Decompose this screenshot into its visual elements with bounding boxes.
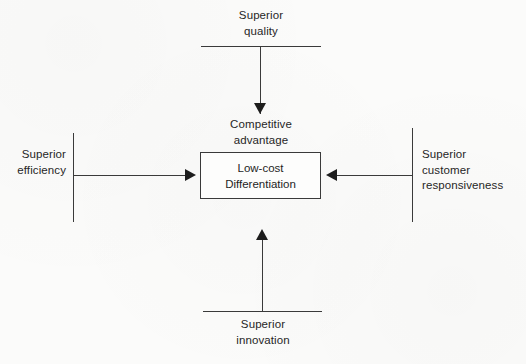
input-label-superior-customer-responsiveness: Superior customer responsiveness [422,147,526,194]
input-label-superior-efficiency: Superior efficiency [0,147,66,178]
top-rule [201,46,321,47]
input-label-superior-innovation: Superior innovation [208,317,318,348]
right-stem [337,175,413,176]
up-arrow-icon [256,229,268,240]
left-rule [73,133,74,222]
left-stem [73,175,186,176]
diagram-canvas: Superior quality Competitive advantage L… [0,0,526,364]
competitive-advantage-caption: Competitive advantage [205,117,317,148]
box-line-differentiation: Differentiation [225,176,296,192]
bottom-stem [262,239,263,312]
input-label-superior-quality: Superior quality [206,8,316,39]
competitive-advantage-box: Low-cost Differentiation [200,152,321,199]
box-line-low-cost: Low-cost [237,160,283,176]
left-arrow-icon [326,169,337,181]
down-arrow-icon [254,103,266,114]
right-arrow-icon [185,169,196,181]
